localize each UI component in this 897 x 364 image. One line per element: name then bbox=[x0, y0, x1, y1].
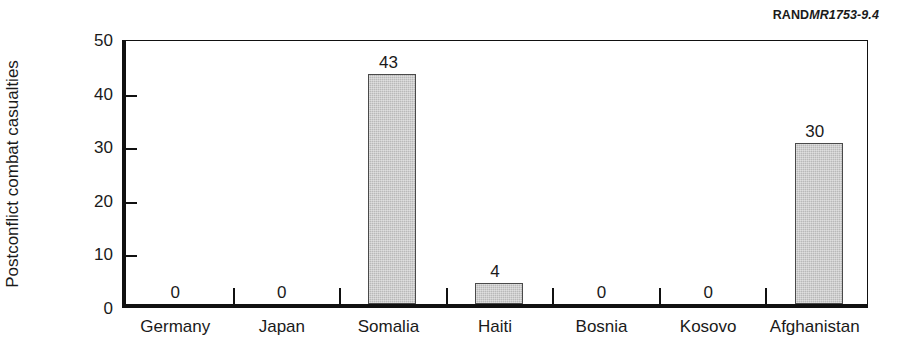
x-axis-category-label: Bosnia bbox=[576, 318, 628, 335]
bar bbox=[368, 74, 416, 304]
x-axis-category-label: Haiti bbox=[478, 318, 512, 335]
x-axis-separator-tick bbox=[446, 288, 448, 304]
x-axis-category-label: Germany bbox=[140, 318, 210, 335]
x-axis-category-label: Afghanistan bbox=[770, 318, 860, 335]
x-axis-separator-tick bbox=[339, 288, 341, 304]
bar bbox=[795, 143, 843, 304]
x-axis-category-label: Japan bbox=[259, 318, 305, 335]
x-axis-category-label: Kosovo bbox=[680, 318, 737, 335]
bar-value-label: 0 bbox=[703, 284, 712, 301]
y-axis-tick-label: 40 bbox=[73, 85, 113, 102]
rand-brand-text: RAND bbox=[773, 8, 810, 22]
y-axis-tick-mark bbox=[126, 255, 137, 257]
x-axis-separator-tick bbox=[765, 288, 767, 304]
y-axis-tick-label: 0 bbox=[73, 300, 113, 317]
y-axis-tick-mark bbox=[126, 95, 137, 97]
x-axis-separator-tick bbox=[659, 288, 661, 304]
x-axis-separator-tick bbox=[552, 288, 554, 304]
bar-value-label: 0 bbox=[171, 284, 180, 301]
y-axis-tick-label: 30 bbox=[73, 139, 113, 156]
bar-value-label: 43 bbox=[379, 54, 398, 71]
bar-value-label: 4 bbox=[490, 263, 499, 280]
bar-value-label: 30 bbox=[805, 123, 824, 140]
rand-report-code: MR1753-9.4 bbox=[809, 8, 879, 22]
y-axis-tick-label: 20 bbox=[73, 192, 113, 209]
y-axis-tick-label: 10 bbox=[73, 246, 113, 263]
x-axis-category-label: Somalia bbox=[358, 318, 419, 335]
bar-value-label: 0 bbox=[597, 284, 606, 301]
x-axis-separator-tick bbox=[233, 288, 235, 304]
chart-figure: RANDMR1753-9.4 Postconflict combat casua… bbox=[0, 0, 897, 364]
y-axis-title-text: Postconflict combat casualties bbox=[4, 60, 21, 288]
y-axis-tick-label: 50 bbox=[73, 32, 113, 49]
y-axis-title: Postconflict combat casualties bbox=[0, 40, 24, 308]
rand-source-tag: RANDMR1753-9.4 bbox=[773, 8, 879, 22]
y-axis-tick-mark bbox=[126, 148, 137, 150]
bar-value-label: 0 bbox=[277, 284, 286, 301]
y-axis-tick-mark bbox=[126, 202, 137, 204]
bar bbox=[475, 283, 523, 304]
